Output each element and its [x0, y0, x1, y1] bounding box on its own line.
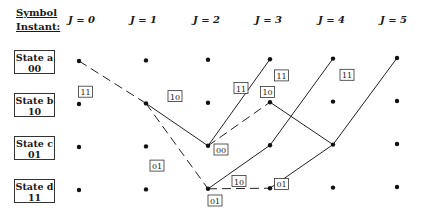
node-d-4: [331, 185, 335, 189]
branch-b1-c2: [146, 103, 208, 145]
branch-label-text: 01: [276, 180, 286, 189]
node-d-1: [144, 187, 148, 191]
branch-label-text: 11: [276, 72, 286, 81]
branch-label-text: 11: [236, 85, 246, 94]
node-b-0: [77, 102, 81, 106]
branch-c2-a3: [208, 59, 270, 146]
branch-label: 01: [208, 195, 222, 206]
node-c-5: [395, 142, 399, 146]
node-a-3: [268, 57, 272, 61]
branch-label: 01: [275, 178, 289, 189]
branch-b3-c4: [270, 102, 333, 144]
node-b-3: [268, 100, 272, 104]
branch-c2-b3: [208, 102, 270, 146]
branch-label: 11: [275, 70, 289, 81]
node-b-1: [144, 101, 148, 105]
node-c-3: [268, 143, 272, 147]
node-d-0: [77, 188, 81, 192]
branch-label: 10: [168, 91, 182, 102]
node-a-2: [206, 58, 210, 62]
branch-b1-d2: [146, 103, 208, 188]
node-b-2: [206, 101, 210, 105]
node-b-5: [395, 99, 399, 103]
trellis-diagram: 1110011100011010110111: [0, 0, 422, 214]
branch-d2-d3: [208, 188, 270, 189]
node-a-4: [331, 56, 335, 60]
node-d-3: [268, 186, 272, 190]
node-c-1: [144, 144, 148, 148]
node-d-2: [206, 187, 210, 191]
branch-label-text: 10: [262, 88, 272, 97]
branch-label-text: 01: [152, 162, 162, 171]
branch-label: 00: [214, 144, 228, 155]
node-c-4: [331, 142, 335, 146]
branch-label: 01: [150, 160, 164, 171]
node-d-5: [395, 185, 399, 189]
node-c-0: [77, 145, 81, 149]
branch-label-text: 10: [234, 178, 244, 187]
node-a-5: [395, 56, 399, 60]
branch-label: 10: [232, 176, 246, 187]
branch-label-text: 10: [170, 93, 180, 102]
branch-label: 11: [340, 69, 354, 80]
branch-label: 11: [79, 86, 93, 97]
node-a-1: [144, 58, 148, 62]
branch-label: 11: [234, 83, 248, 94]
branch-label-text: 01: [210, 197, 220, 206]
branch-label-text: 11: [80, 88, 90, 97]
node-a-0: [77, 59, 81, 63]
branch-label-text: 11: [342, 71, 352, 80]
node-b-4: [331, 99, 335, 103]
branch-label: 10: [261, 86, 275, 97]
branch-label-text: 00: [216, 146, 226, 155]
node-c-2: [206, 144, 210, 148]
